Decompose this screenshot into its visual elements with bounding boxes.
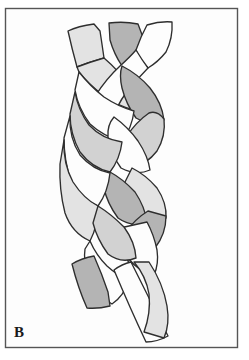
panel-letter-label: B — [14, 325, 25, 340]
braid-illustration — [0, 0, 249, 360]
top-tails-group — [68, 22, 172, 68]
figure-panel: B — [0, 0, 249, 360]
